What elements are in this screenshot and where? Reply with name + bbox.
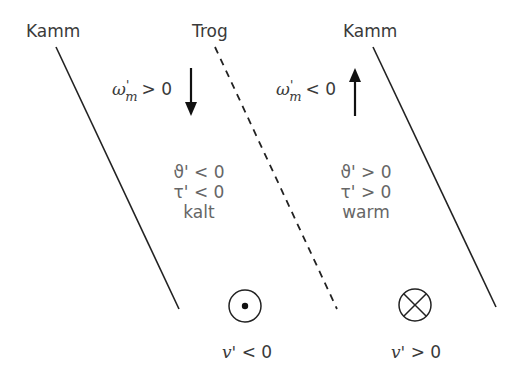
theta-warm: ϑ' > 0 (335, 162, 397, 182)
ridge-right-label: Kamm (343, 21, 397, 41)
tau-warm: τ' > 0 (335, 182, 397, 202)
warm-label: warm (335, 202, 397, 222)
out-of-page-dot-circle-icon (229, 290, 261, 322)
into-page-cross-circle-icon (399, 289, 431, 321)
omega-right-label: ω'm< 0 (276, 79, 336, 101)
cold-region: ϑ' < 0 τ' < 0 kalt (168, 162, 230, 222)
cold-label: kalt (168, 202, 230, 222)
up-arrow-icon (349, 68, 361, 116)
diagram-canvas (0, 0, 521, 377)
omega-left-label: ω'm> 0 (112, 79, 172, 101)
tau-cold: τ' < 0 (168, 182, 230, 202)
theta-cold: ϑ' < 0 (168, 162, 230, 182)
down-arrow-icon (185, 68, 197, 116)
trough-label: Trog (192, 21, 228, 41)
warm-region: ϑ' > 0 τ' > 0 warm (335, 162, 397, 222)
v-right-label: v' > 0 (391, 342, 441, 362)
ridge-left-label: Kamm (26, 21, 80, 41)
v-left-label: v' < 0 (222, 342, 272, 362)
